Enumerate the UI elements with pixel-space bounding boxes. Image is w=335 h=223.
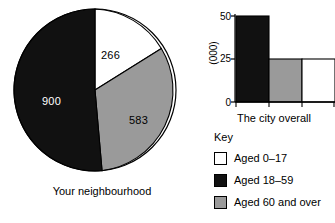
- y-axis-tick-label-0: 0: [211, 98, 231, 108]
- key-item-aged-60-and-over: Aged 60 and over: [214, 192, 335, 212]
- pie-chart-graphic: [8, 4, 196, 182]
- key-label-aged-60-and-over: Aged 60 and over: [234, 196, 321, 209]
- bar-chart-caption: The city overall: [213, 112, 335, 125]
- chart-key: Key Aged 0–17 Aged 18–59 Aged 60 and ove…: [214, 131, 335, 219]
- key-title: Key: [214, 131, 335, 144]
- pie-slice-aged-18-59: [14, 9, 102, 171]
- age-distribution-figure: 266 583 900 Your neighbourhood: [0, 0, 335, 223]
- key-swatch-aged-18-59: [214, 174, 227, 187]
- key-swatch-aged-0-17: [214, 152, 227, 165]
- pie-chart-caption: Your neighbourhood: [8, 185, 196, 198]
- bar-aged-0-17: [302, 59, 335, 102]
- pie-chart-panel: 266 583 900 Your neighbourhood: [8, 4, 196, 204]
- bar-aged-18-59: [236, 16, 269, 102]
- key-item-aged-18-59: Aged 18–59: [214, 170, 335, 190]
- bar-aged-60-and-over: [269, 59, 302, 102]
- pie-slice-value-aged-0-17: 266: [101, 50, 120, 61]
- y-axis-title: (000): [209, 31, 219, 75]
- y-axis-tick-label-50: 50: [211, 12, 231, 22]
- key-label-aged-0-17: Aged 0–17: [234, 152, 287, 165]
- key-item-aged-0-17: Aged 0–17: [214, 148, 335, 168]
- pie-slice-value-aged-60-and-over: 583: [129, 115, 148, 126]
- key-label-aged-18-59: Aged 18–59: [234, 174, 293, 187]
- bar-chart-panel: 50 25 0 (000) The city overall: [205, 4, 335, 124]
- pie-slice-value-aged-18-59: 900: [42, 96, 61, 107]
- key-swatch-aged-60-and-over: [214, 196, 227, 209]
